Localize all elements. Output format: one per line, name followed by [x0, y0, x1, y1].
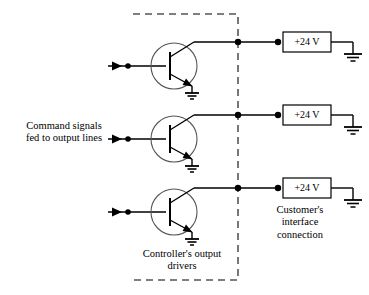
controller-boundary	[133, 14, 238, 280]
customer-terminal-dot-2	[275, 112, 281, 118]
supply-box-label-3: +24 V	[283, 182, 331, 193]
ground-symbol-emitter-3	[185, 239, 199, 245]
transistor-emitter-arrow-icon-2	[183, 152, 193, 160]
boundary-node-dot-2	[235, 112, 241, 118]
input-arrow-icon-3	[112, 208, 122, 217]
input-node-dot-3	[125, 209, 131, 215]
ground-symbol-supply-3	[344, 200, 362, 207]
command-signals-label: Command signals fed to output lines	[8, 120, 120, 145]
boundary-node-dot-1	[235, 39, 241, 45]
ground-symbol-supply-2	[344, 127, 362, 134]
input-node-dot-1	[125, 63, 131, 69]
input-arrow-icon-1	[112, 62, 122, 71]
supply-box-label-1: +24 V	[283, 36, 331, 47]
customer-terminal-dot-1	[275, 39, 281, 45]
customer-interface-label: Customer's interface connection	[258, 204, 342, 241]
ground-symbol-emitter-2	[185, 166, 199, 172]
supply-box-label-2: +24 V	[283, 109, 331, 120]
input-node-dot-2	[125, 136, 131, 142]
controller-drivers-label: Controller's output drivers	[126, 248, 238, 273]
circuit-diagram-page: +24 V +24 V +24 V Command signals fed to…	[0, 0, 369, 295]
ground-symbol-supply-1	[344, 54, 362, 61]
transistor-emitter-arrow-icon-3	[183, 225, 193, 233]
customer-terminal-dot-3	[275, 185, 281, 191]
transistor-emitter-arrow-icon-1	[183, 79, 193, 87]
boundary-node-dot-3	[235, 185, 241, 191]
ground-symbol-emitter-1	[185, 93, 199, 99]
